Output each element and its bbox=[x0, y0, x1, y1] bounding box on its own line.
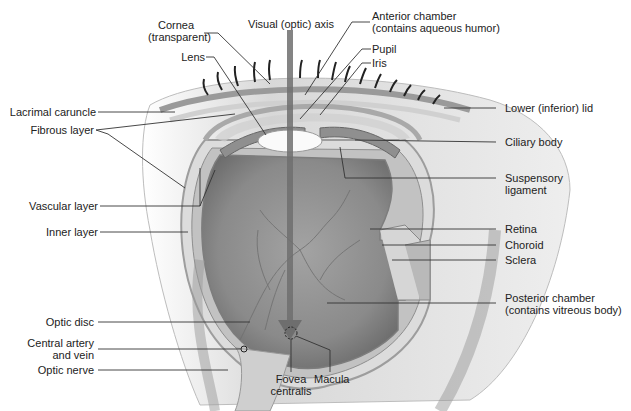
label-posterior-chamber: Posterior chamber (contains vitreous bod… bbox=[505, 292, 622, 316]
label-suspensory-line1: Suspensory bbox=[505, 172, 563, 184]
label-vascular-layer: Vascular layer bbox=[0, 200, 98, 212]
label-anterior-chamber-line1: Anterior chamber bbox=[372, 10, 500, 22]
label-fovea-line2: centralis bbox=[270, 385, 312, 397]
label-sclera: Sclera bbox=[505, 254, 536, 266]
label-optic-disc: Optic disc bbox=[0, 316, 94, 328]
label-lens: Lens bbox=[160, 51, 205, 63]
label-choroid: Choroid bbox=[505, 239, 544, 251]
label-cornea: Cornea (transparent) bbox=[148, 19, 204, 43]
label-inner-layer: Inner layer bbox=[0, 226, 98, 238]
label-visual-axis: Visual (optic) axis bbox=[248, 18, 334, 30]
label-ciliary-body: Ciliary body bbox=[505, 136, 562, 148]
label-fovea-line1: Fovea bbox=[270, 373, 312, 385]
label-lacrimal-caruncle: Lacrimal caruncle bbox=[0, 106, 96, 118]
label-central-artery-line1: Central artery bbox=[0, 337, 94, 349]
label-posterior-chamber-line2: (contains vitreous body) bbox=[505, 304, 622, 316]
label-cornea-line1: Cornea bbox=[148, 19, 204, 31]
label-lower-lid: Lower (inferior) lid bbox=[505, 102, 593, 114]
label-iris: Iris bbox=[372, 57, 387, 69]
label-suspensory-ligament: Suspensory ligament bbox=[505, 172, 563, 196]
label-suspensory-line2: ligament bbox=[505, 184, 563, 196]
label-posterior-chamber-line1: Posterior chamber bbox=[505, 292, 622, 304]
label-anterior-chamber-line2: (contains aqueous humor) bbox=[372, 22, 500, 34]
label-fovea-centralis: Fovea centralis bbox=[270, 373, 312, 397]
label-macula: Macula bbox=[314, 373, 349, 385]
label-retina: Retina bbox=[505, 223, 537, 235]
label-fibrous-layer: Fibrous layer bbox=[0, 124, 94, 136]
eye-diagram: Cornea (transparent) Visual (optic) axis… bbox=[0, 0, 631, 411]
label-optic-nerve: Optic nerve bbox=[0, 364, 94, 376]
visual-axis bbox=[287, 30, 293, 330]
label-central-artery-vein: Central artery and vein bbox=[0, 337, 94, 361]
label-central-artery-line2: and vein bbox=[0, 349, 94, 361]
label-pupil: Pupil bbox=[372, 43, 396, 55]
label-anterior-chamber: Anterior chamber (contains aqueous humor… bbox=[372, 10, 500, 34]
label-cornea-line2: (transparent) bbox=[148, 31, 204, 43]
